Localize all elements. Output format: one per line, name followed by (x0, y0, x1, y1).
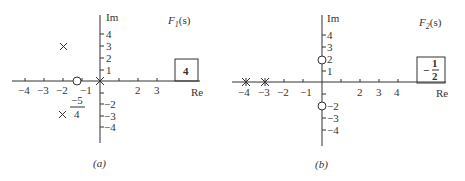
re-label: Re (436, 87, 448, 99)
function-label: F1(s) (167, 14, 191, 29)
svg-text:3: 3 (327, 41, 333, 53)
gain-box (417, 57, 445, 83)
svg-text:3: 3 (154, 84, 160, 96)
svg-text:2: 2 (135, 84, 141, 96)
svg-text:−2: −2 (104, 98, 116, 110)
svg-text:−4: −4 (18, 84, 30, 96)
pole-zero-diagrams: Im Re −4 −3 −2 −1 2 3 4 3 2 1 −2 −3 −4 −… (0, 0, 465, 181)
panel-b-labels: Im Re −4 −3 −2 −1 2 3 4 4 3 2 1 −2 −3 −4… (238, 12, 448, 171)
re-label: Re (191, 86, 203, 98)
function-label: F2(s) (418, 16, 442, 31)
panel-a-labels: Im Re −4 −3 −2 −1 2 3 4 3 2 1 −2 −3 −4 −… (18, 11, 203, 170)
caption-b: (b) (315, 158, 328, 171)
zero-icon (318, 102, 326, 110)
svg-text:1: 1 (327, 65, 333, 77)
pole-icon (60, 43, 67, 50)
im-label: Im (106, 11, 119, 23)
svg-text:−2: −2 (56, 84, 68, 96)
svg-text:2: 2 (327, 53, 333, 65)
svg-text:4: 4 (327, 29, 333, 41)
svg-text:−2: −2 (327, 100, 339, 112)
gain-den: 2 (432, 70, 438, 82)
svg-text:−4: −4 (104, 121, 116, 133)
svg-text:−1: −1 (300, 86, 312, 98)
zero-annotation-den: 4 (74, 108, 80, 120)
zero-annotation-num: −5 (71, 94, 83, 106)
zero-icon (318, 56, 326, 64)
svg-text:−2: −2 (277, 86, 289, 98)
gain-sign: − (423, 64, 429, 76)
svg-text:−3: −3 (327, 112, 339, 124)
svg-text:−4: −4 (327, 124, 339, 136)
svg-text:3: 3 (376, 86, 382, 98)
im-label: Im (327, 12, 340, 24)
svg-text:−4: −4 (238, 86, 250, 98)
svg-text:4: 4 (106, 28, 112, 40)
gain-value: 4 (183, 65, 189, 77)
svg-text:4: 4 (394, 86, 400, 98)
gain-num: 1 (432, 57, 438, 69)
svg-text:3: 3 (106, 40, 112, 52)
svg-text:−3: −3 (37, 84, 49, 96)
caption-a: (a) (93, 157, 106, 170)
svg-text:2: 2 (357, 86, 363, 98)
pole-icon (59, 111, 66, 118)
svg-text:−3: −3 (258, 86, 270, 98)
svg-text:2: 2 (106, 52, 112, 64)
svg-text:1: 1 (106, 64, 112, 76)
panel-b (232, 15, 446, 146)
